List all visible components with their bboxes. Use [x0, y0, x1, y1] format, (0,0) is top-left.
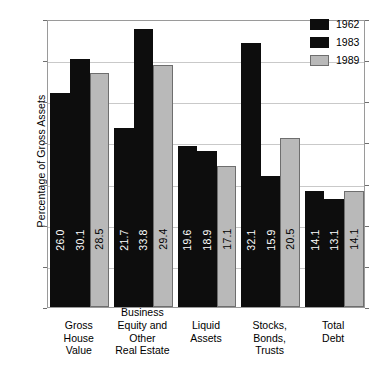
y-axis-tick-mark — [365, 267, 369, 268]
legend-label: 1983 — [336, 37, 359, 48]
y-axis-tick-mark — [365, 226, 369, 227]
bar-chart: Percentage of Gross Assets 0510152025303… — [0, 0, 383, 377]
bar: 19.6 — [178, 146, 198, 307]
legend-item[interactable]: 1983 — [310, 33, 382, 51]
bar: 21.7 — [114, 128, 134, 307]
bar: 14.1 — [344, 191, 364, 307]
bar: 14.1 — [305, 191, 325, 307]
y-axis-tick-mark — [365, 185, 369, 186]
bar-value-label: 28.5 — [94, 228, 104, 249]
y-axis-tick-mark — [365, 102, 369, 103]
bar-value-label: 19.6 — [182, 229, 192, 250]
bar-value-label: 14.1 — [310, 229, 320, 250]
bar: 32.1 — [241, 43, 261, 307]
bar-value-label: 17.1 — [222, 228, 232, 249]
legend-item[interactable]: 1962 — [310, 15, 382, 33]
bar-value-label: 30.1 — [75, 229, 85, 250]
bar: 17.1 — [217, 166, 237, 307]
y-axis-tick-mark — [365, 143, 369, 144]
bar-value-label: 14.1 — [349, 228, 359, 249]
y-axis-title: Percentage of Gross Assets — [35, 16, 47, 306]
legend: 196219831989 — [310, 15, 382, 69]
bar: 13.1 — [324, 199, 344, 307]
bar: 20.5 — [280, 138, 300, 307]
bar-value-label: 15.9 — [266, 229, 276, 250]
bar: 26.0 — [50, 93, 70, 307]
bar-value-label: 26.0 — [55, 229, 65, 250]
bar: 30.1 — [70, 59, 90, 307]
bar: 28.5 — [90, 73, 110, 308]
bar: 15.9 — [261, 176, 281, 307]
bar: 18.9 — [197, 151, 217, 307]
legend-swatch — [310, 55, 329, 66]
legend-item[interactable]: 1989 — [310, 51, 382, 69]
legend-label: 1989 — [336, 55, 359, 66]
bar-value-label: 29.4 — [158, 228, 168, 249]
bar-value-label: 32.1 — [246, 229, 256, 250]
bar-value-label: 21.7 — [119, 229, 129, 250]
x-axis-category-label: Total Debt — [293, 319, 373, 344]
bar: 33.8 — [134, 29, 154, 307]
bar-value-label: 33.8 — [138, 229, 148, 250]
y-axis-tick-mark — [365, 308, 369, 309]
legend-swatch — [310, 19, 329, 30]
y-axis-tick-mark — [43, 308, 47, 309]
bar-value-label: 13.1 — [329, 229, 339, 250]
bar-value-label: 18.9 — [202, 229, 212, 250]
legend-label: 1962 — [336, 19, 359, 30]
legend-swatch — [310, 37, 329, 48]
bar: 29.4 — [153, 65, 173, 307]
bar-value-label: 20.5 — [285, 228, 295, 249]
